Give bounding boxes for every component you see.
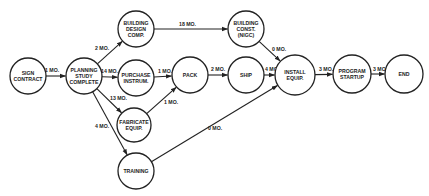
edge-duration-label: 18 MO. (179, 21, 197, 27)
node-ship: SHIP (228, 57, 264, 93)
edge-duration-label: 0 MO. (208, 125, 223, 131)
node-label: EQUIP. (126, 125, 143, 131)
node-label: COMPLETE (70, 79, 99, 85)
edge-duration-label: 2 MO. (211, 66, 226, 72)
edge-install-program: 3 MO. (315, 66, 334, 75)
edge-purchase-pack: 1 MO. (154, 68, 173, 77)
arrow-icon (102, 77, 118, 78)
node-label: EQUIP. (287, 75, 304, 81)
edge-fabricate-pack: 1 MO. (147, 87, 179, 113)
arrow-icon (154, 76, 172, 77)
node-label: (NIGC) (238, 32, 255, 38)
node-bdesign: BUILDINGDESIGNCOMP. (118, 11, 154, 47)
edge-duration-label: 1 MO. (164, 99, 179, 105)
node-label: PACK (183, 72, 198, 78)
node-label: CONTRACT (13, 76, 43, 82)
pert-diagram: 1 MO.2 MO.14 MO.13 MO.4 MO.18 MO.1 MO.1 … (0, 0, 429, 196)
node-label: SHIP (240, 72, 253, 78)
node-sign: SIGNCONTRACT (10, 58, 46, 94)
edge-duration-label: 1 MO. (45, 67, 60, 73)
edge-bconst-install: 0 MO. (259, 41, 287, 61)
node-install: INSTALLEQUIP. (275, 55, 315, 95)
edge-planning-bdesign: 2 MO. (95, 41, 122, 64)
edge-training-install: 0 MO. (151, 86, 277, 162)
node-end: END (385, 55, 423, 93)
edge-planning-fabricate: 13 MO. (97, 89, 128, 113)
arrow-icon (151, 86, 277, 162)
node-label: STARTUP (340, 74, 365, 80)
edges-layer: 1 MO.2 MO.14 MO.13 MO.4 MO.18 MO.1 MO.1 … (45, 21, 388, 162)
nodes-layer: SIGNCONTRACTPLANNINGSTUDYCOMPLETEBUILDIN… (10, 11, 423, 189)
node-planning: PLANNINGSTUDYCOMPLETE (66, 58, 102, 94)
edge-planning-purchase: 14 MO. (101, 68, 119, 77)
edge-sign-planning: 1 MO. (45, 67, 66, 76)
node-label: TRAINING (123, 168, 148, 174)
edge-duration-label: 13 MO. (110, 95, 128, 101)
edge-duration-label: 14 MO. (101, 68, 119, 74)
edge-duration-label: 2 MO. (95, 45, 110, 51)
node-bconst: BUILDINGCONST.(NIGC) (228, 11, 264, 47)
node-training: TRAINING (118, 153, 154, 189)
node-purchase: PURCHASEINSTRUM. (118, 60, 154, 96)
node-label: COMP. (128, 32, 145, 38)
node-pack: PACK (172, 57, 208, 93)
node-fabricate: FABRICATEEQUIP. (117, 108, 151, 142)
edge-duration-label: 0 MO. (272, 46, 287, 52)
edge-duration-label: 1 MO. (158, 68, 173, 74)
node-program: PROGRAMSTARTUP (333, 55, 371, 93)
edge-bdesign-bconst: 18 MO. (154, 21, 228, 29)
edge-duration-label: 3 MO. (319, 66, 334, 72)
edge-pack-ship: 2 MO. (208, 66, 228, 75)
node-label: END (399, 71, 410, 77)
edge-duration-label: 4 MO. (95, 123, 110, 129)
node-label: INSTRUM. (123, 78, 149, 84)
